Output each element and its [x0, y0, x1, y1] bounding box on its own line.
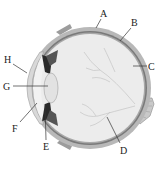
label-g: G [3, 81, 10, 92]
label-h: H [4, 54, 11, 65]
label-c: C [148, 61, 155, 72]
lens [44, 73, 58, 103]
label-b: B [131, 17, 138, 28]
label-d: D [120, 145, 127, 156]
label-a: A [100, 8, 108, 19]
leader-a [96, 19, 101, 28]
label-e: E [43, 141, 49, 152]
label-f: F [12, 123, 18, 134]
leader-h [13, 64, 27, 73]
eye-diagram: A B C D E F G H [0, 0, 160, 178]
